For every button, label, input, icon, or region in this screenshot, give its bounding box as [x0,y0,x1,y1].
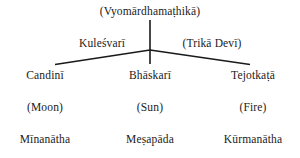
node-deity-center: Bhāskarī [129,68,171,82]
node-element-center: (Sun) [137,100,163,114]
node-element-left: (Moon) [27,100,63,114]
node-branch-title-right: (Trikā Devī) [182,36,241,50]
node-master-right: Kūrmanātha [224,132,282,146]
node-root: (Vyomārdhamaṭhikā) [100,4,200,18]
connector-diagonal-right [150,50,250,65]
diagram-canvas: (Vyomārdhamaṭhikā) Kuleśvarī (Trikā Devī… [0,0,300,158]
node-element-right: (Fire) [239,100,266,114]
connector-diagonal-left [55,50,150,65]
node-deity-right: Tejotkaṭā [231,68,275,82]
node-master-center: Meṣapāda [126,132,174,146]
node-deity-left: Candinī [26,68,63,82]
node-branch-title-left: Kuleśvarī [79,36,125,50]
node-master-left: Mīnanātha [20,132,71,146]
